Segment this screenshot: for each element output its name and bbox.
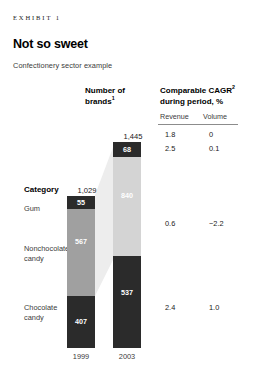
axis-label-2003: 2003 [107,352,147,361]
subheader-revenue: Revenue [160,112,189,121]
axis-label-1999: 1999 [61,352,101,361]
page-title: Not so sweet [13,37,88,51]
brands-heading-line2: brands [85,97,112,106]
subheader-volume: Volume [203,112,227,121]
cagr-revenue-chocolate: 2.4 [165,303,175,312]
bar-segment-2003-chocolate: 537 [113,256,141,348]
cagr-volume-gum: 0.1 [209,144,219,153]
nonchocolate-line1: Nonchocolate [24,244,69,253]
header-rule [158,124,238,125]
bar-segment-label-1999-gum: 55 [67,199,95,206]
cagr-volume-nonchocolate: −2.2 [209,219,224,228]
bar-total-2003: 1,445 [113,132,153,141]
cagr-volume-total: 0 [209,130,213,139]
bar-total-1999: 1,029 [67,186,107,195]
bar-segment-label-2003-gum: 68 [113,146,141,153]
cagr-revenue-total: 1.8 [165,130,175,139]
chocolate-line1: Chocolate [24,303,57,312]
column-header-brands: Number of brands1 [85,86,147,107]
chocolate-line2: candy [24,313,44,322]
bar-segment-label-1999-chocolate: 407 [67,318,95,325]
cagr-footnote-marker: 2 [232,84,235,90]
cagr-revenue-nonchocolate: 0.6 [165,219,175,228]
bar-segment-label-1999-nonchocolate: 567 [67,238,95,245]
category-column-header: Category [24,185,59,194]
bar-segment-2003-nonchocolate: 840 [113,157,141,256]
cagr-volume-chocolate: 1.0 [209,303,219,312]
exhibit-label: EXHIBIT 1 [13,14,61,21]
cagr-revenue-gum: 2.5 [165,144,175,153]
exhibit-page: EXHIBIT 1 Not so sweet Confectionery sec… [0,0,253,391]
brands-heading-line1: Number of [85,86,125,95]
cagr-heading-line2: during period, % [160,97,223,106]
page-subtitle: Confectionery sector example [13,61,112,70]
bar-segment-1999-gum: 55 [67,196,95,209]
connector-band-lower [95,256,115,348]
bar-segment-1999-nonchocolate: 567 [67,209,95,296]
cagr-heading-line1: Comparable CAGR [160,86,232,95]
column-header-cagr: Comparable CAGR2 during period, % [160,86,252,107]
bar-segment-label-2003-nonchocolate: 840 [113,192,141,199]
nonchocolate-line2: candy [24,254,44,263]
bar-segment-label-2003-chocolate: 537 [113,289,141,296]
bar-segment-1999-chocolate: 407 [67,296,95,348]
connector-band-upper [95,142,115,348]
bar-segment-2003-gum: 68 [113,142,141,157]
brands-footnote-marker: 1 [112,95,115,101]
